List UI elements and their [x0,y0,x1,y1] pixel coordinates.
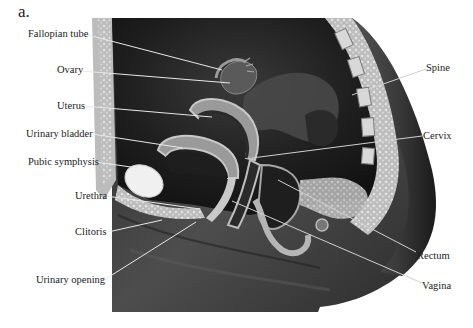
label-fallopian-tube: Fallopian tube [28,28,88,40]
label-uterus: Uterus [57,100,85,112]
label-vagina: Vagina [422,280,451,292]
label-ovary: Ovary [57,64,83,76]
panel-letter: a. [18,2,30,22]
label-urinary-bladder: Urinary bladder [26,128,93,140]
label-cervix: Cervix [423,130,452,142]
label-clitoris: Clitoris [75,226,107,238]
label-urinary-opening: Urinary opening [36,274,105,286]
label-spine: Spine [426,62,450,74]
label-rectum: Rectum [417,250,450,262]
label-urethra: Urethra [75,190,107,202]
label-pubic-symphysis: Pubic symphysis [28,156,99,168]
anatomy-figure: a. Fallopian tube Ovary Uterus Urinary b… [0,0,473,328]
